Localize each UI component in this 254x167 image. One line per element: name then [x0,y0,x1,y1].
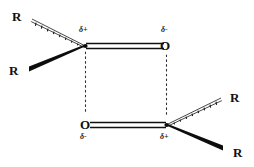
label-r-group-bottom-right-lower: R [233,146,242,159]
atom-vertex-carbon-top [83,44,87,48]
label-r-group-bottom-right-upper: R [230,91,239,104]
bond-double-top-carbonyl [86,44,164,49]
bond-solid-wedge-top-left-lower [29,45,85,72]
label-delta-plus-carbon-bottom: δ+ [160,133,169,141]
label-oxygen-bottom: O [80,118,90,131]
label-r-group-top-left-upper: R [12,10,21,23]
bond-hashed-wedge-bottom-right [167,98,222,126]
label-oxygen-top: O [160,39,170,52]
bond-hashed-wedge-top-left [31,19,84,47]
atom-vertex-carbon-bottom [164,123,168,127]
bond-solid-wedge-bottom-right-lower [167,124,224,151]
label-delta-plus-carbon-top: δ+ [79,26,88,34]
structure-canvas [0,0,254,167]
bond-double-bottom-carbonyl [90,123,166,128]
chemical-structure-diagram: R R δ+ O δ- O δ- δ+ R R [0,0,254,167]
label-delta-minus-oxygen-bottom: δ- [80,133,87,141]
label-r-group-top-left-lower: R [9,64,18,77]
label-delta-minus-oxygen-top: δ- [161,26,168,34]
